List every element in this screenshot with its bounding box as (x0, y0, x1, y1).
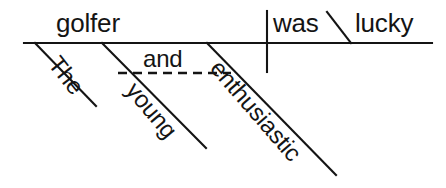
word-verb-was: was (273, 10, 319, 36)
word-subject-golfer: golfer (56, 10, 120, 36)
word-conjunction-and: and (143, 47, 182, 71)
sentence-diagram: golfer was lucky and The young enthusias… (0, 0, 446, 188)
word-complement-lucky: lucky (355, 10, 413, 36)
subject-complement-divider (327, 12, 351, 43)
